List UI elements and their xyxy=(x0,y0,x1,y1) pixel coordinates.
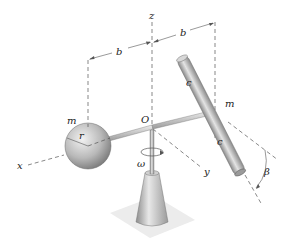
rod-lower-c-label: c xyxy=(217,136,223,147)
origin-label: O xyxy=(141,114,149,125)
cone-stand xyxy=(136,171,168,227)
tilted-rod xyxy=(176,53,247,177)
y-axis-line xyxy=(153,129,202,168)
rod-mass-label: m xyxy=(225,98,234,109)
omega-label: ω xyxy=(137,158,145,169)
sphere-mass-label: m xyxy=(67,115,76,126)
vertical-shaft xyxy=(150,130,154,174)
rod-extension-line xyxy=(245,175,262,205)
dim-b-left-label: b xyxy=(116,46,122,57)
x-axis-label: x xyxy=(17,160,23,171)
y-axis-label: y xyxy=(203,166,210,177)
beta-label: β xyxy=(263,166,270,177)
dynamics-diagram: z b b x y m r O ω c xyxy=(0,0,292,241)
x-axis-line xyxy=(28,155,64,165)
diagram-canvas: z b b x y m r O ω c xyxy=(0,0,292,241)
rod-upper-c-label: c xyxy=(186,77,192,88)
rod-arm xyxy=(152,111,211,129)
z-axis-label: z xyxy=(148,10,155,21)
x-arm xyxy=(108,125,153,141)
dim-b-right-label: b xyxy=(180,27,186,38)
